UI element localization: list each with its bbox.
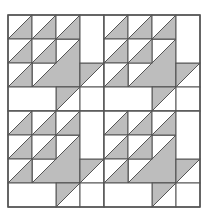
quilt-block <box>8 111 104 207</box>
light-patch <box>176 111 200 159</box>
light-patch <box>176 183 200 207</box>
light-patch <box>176 87 200 111</box>
light-patch <box>104 183 152 207</box>
light-patch <box>80 87 104 111</box>
quilt-block <box>104 15 200 111</box>
light-patch <box>8 183 56 207</box>
quilt-diagram <box>0 0 204 213</box>
light-patch <box>80 15 104 63</box>
quilt-block <box>8 15 104 111</box>
light-patch <box>80 183 104 207</box>
quilt-block <box>104 111 200 207</box>
light-patch <box>8 87 56 111</box>
light-patch <box>104 87 152 111</box>
light-patch <box>80 111 104 159</box>
quilt-blocks <box>8 15 200 207</box>
light-patch <box>176 15 200 63</box>
